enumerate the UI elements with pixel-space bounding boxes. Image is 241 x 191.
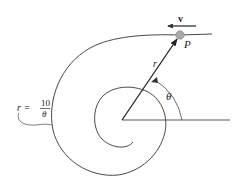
- radius-label: r: [153, 58, 157, 69]
- particle-label: P: [183, 38, 191, 50]
- equation-denominator: θ: [42, 109, 47, 119]
- equation-leader: [18, 113, 52, 125]
- angle-label: θ: [166, 90, 172, 102]
- hyperbolic-spiral-diagram: v P r θ r = 10 θ: [0, 0, 241, 191]
- particle: [176, 31, 184, 39]
- radius-vector: [122, 39, 177, 120]
- equation-numerator: 10: [41, 98, 51, 108]
- angle-arc-arrowhead: [151, 77, 158, 83]
- velocity-label: v: [178, 13, 183, 24]
- equation-lhs: r =: [17, 102, 30, 113]
